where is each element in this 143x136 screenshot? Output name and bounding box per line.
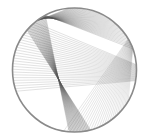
chord-envelope-figure (0, 0, 143, 136)
bottom-right-fan-line (79, 41, 129, 132)
bottom-right-fan-line (82, 41, 130, 131)
bottom-right-fan-line (67, 39, 129, 131)
left-fan-line (18, 45, 137, 71)
bottom-right-fan-line (64, 39, 128, 131)
